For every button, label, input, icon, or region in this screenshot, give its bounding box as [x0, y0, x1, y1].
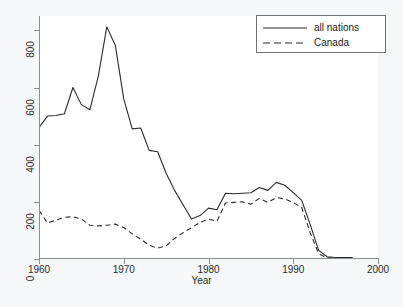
x-tick-label: 2000 — [358, 264, 398, 275]
y-tick-label: 400 — [25, 144, 36, 184]
y-tick-label: 600 — [25, 87, 36, 127]
x-axis-title: Year — [0, 275, 403, 286]
y-tick-label: 800 — [25, 30, 36, 70]
legend-swatch-dashed-line — [262, 38, 308, 48]
y-tick-label: 200 — [25, 201, 36, 241]
series-line-all-nations — [39, 27, 353, 258]
y-axis-line — [39, 16, 40, 259]
x-tick-label: 1970 — [104, 264, 144, 275]
chart-legend: all nations Canada — [256, 15, 386, 53]
legend-label-canada: Canada — [314, 37, 349, 48]
legend-item-all-nations: all nations — [262, 20, 380, 35]
line-chart: 0200400600800 19601970198019902000 Year … — [0, 0, 403, 307]
series-line-canada — [39, 198, 353, 258]
x-tick-label: 1980 — [189, 264, 229, 275]
x-tick-label: 1990 — [273, 264, 313, 275]
legend-swatch-solid-line — [262, 23, 308, 33]
legend-item-canada: Canada — [262, 35, 380, 50]
x-tick-label: 1960 — [19, 264, 59, 275]
legend-label-all-nations: all nations — [314, 22, 359, 33]
